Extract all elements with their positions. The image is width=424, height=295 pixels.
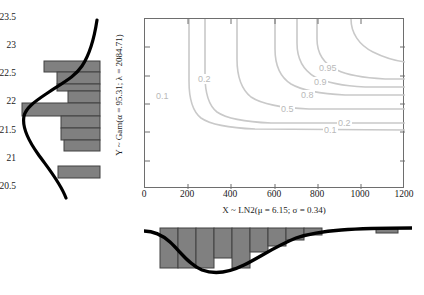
x-tick-label-6: 1200 bbox=[384, 190, 424, 199]
y-tick-label-0: 20.5 bbox=[0, 182, 16, 191]
contour-label-0-95: 0.95 bbox=[318, 63, 338, 73]
y-marginal-histogram-panel bbox=[2, 18, 102, 200]
x-axis-label: X ~ LN2(μ = 6.15; σ = 0.34) bbox=[144, 205, 404, 215]
y-tick-label-2: 21.5 bbox=[0, 126, 16, 135]
x-tick-label-4: 800 bbox=[297, 190, 337, 199]
x-tick-label-3: 600 bbox=[254, 190, 294, 199]
x-marginal-histogram-panel bbox=[144, 222, 412, 294]
contour-label-0-2-right: 0.2 bbox=[337, 118, 352, 128]
contour-label-0-9: 0.9 bbox=[313, 77, 328, 87]
y-axis-label: Y ~ Gam(α = 95.31; λ = 2084.71) bbox=[114, 20, 124, 170]
y-marginal-svg bbox=[2, 18, 102, 200]
x-tick-label-5: 1000 bbox=[340, 190, 380, 199]
contour-lines bbox=[189, 19, 405, 130]
y-tick-label-6: 23.5 bbox=[0, 13, 16, 22]
contour-label-0-8: 0.8 bbox=[300, 90, 315, 100]
y-tick-label-4: 22.5 bbox=[0, 69, 16, 78]
contour-plot-panel: 0.1 0.2 0.95 0.9 0.8 0.5 0.2 0.1 bbox=[144, 18, 404, 188]
x-tick-label-0: 0 bbox=[124, 190, 164, 199]
contour-label-0-2-left: 0.2 bbox=[197, 74, 212, 84]
contour-svg bbox=[145, 19, 405, 189]
copula-contour-figure: Y ~ Gam(α = 95.31; λ = 2084.71) 23.5 23 … bbox=[0, 0, 424, 295]
y-tick-label-1: 21 bbox=[0, 154, 16, 163]
x-tick-label-2: 400 bbox=[210, 190, 250, 199]
contour-label-0-1-left: 0.1 bbox=[155, 91, 170, 101]
x-histogram-bars bbox=[160, 228, 398, 268]
x-marginal-svg bbox=[144, 222, 412, 294]
y-histogram-bars bbox=[22, 61, 100, 178]
contour-label-0-5: 0.5 bbox=[280, 104, 295, 114]
x-tick-label-1: 200 bbox=[167, 190, 207, 199]
y-axis-ticks bbox=[145, 47, 405, 161]
y-axis-label-wrapper: Y ~ Gam(α = 95.31; λ = 2084.71) bbox=[96, 30, 112, 180]
contour-label-0-1-right: 0.1 bbox=[323, 125, 338, 135]
y-tick-label-3: 22 bbox=[0, 97, 16, 106]
y-tick-label-5: 23 bbox=[0, 41, 16, 50]
